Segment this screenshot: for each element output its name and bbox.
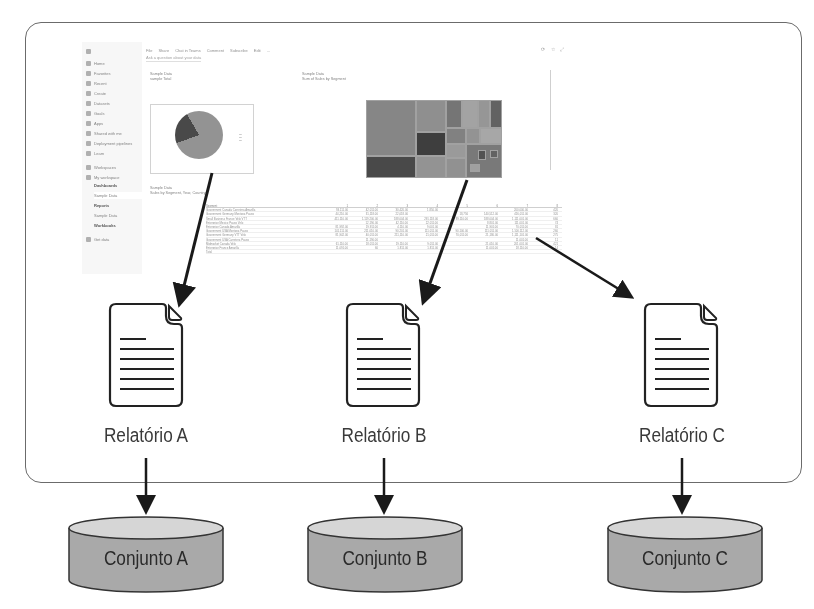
tile-subtitle: sample Total xyxy=(150,77,172,82)
table-cell: 200,000.00 xyxy=(498,208,528,211)
sidebar-item-workbooks[interactable]: Workbooks xyxy=(94,222,116,229)
table-cell xyxy=(438,250,468,253)
dashboard-treemap-tile[interactable] xyxy=(366,100,502,178)
sidebar-item-workspaces[interactable]: Workspaces xyxy=(86,164,116,171)
toolbar-button-subscribe[interactable]: Subscribe xyxy=(230,48,248,53)
table-cell: 21,011.00 xyxy=(408,233,438,236)
table-cell: 11 xyxy=(528,238,558,241)
tile-pie-title[interactable]: Sample Data sample Total xyxy=(150,72,172,81)
table-cell: 201,001.00 xyxy=(498,242,528,245)
dashboard-pie-tile[interactable]: ▪▪▪▪▪▪▪▪▪ xyxy=(150,104,254,174)
table-cell xyxy=(438,208,468,211)
table-cell: 1,811.00 xyxy=(378,246,408,249)
clock-icon xyxy=(86,81,91,86)
sidebar-item-learn[interactable]: Learn xyxy=(86,150,104,157)
tile-treemap-title[interactable]: Sample Data Sum of Sales by Segment xyxy=(302,72,346,81)
sidebar-item-datasets[interactable]: Datasets xyxy=(86,100,110,107)
sidebar-item-label: Sample Data xyxy=(94,213,117,218)
report-document-icon-a[interactable] xyxy=(108,302,184,408)
table-header-cell: 1 xyxy=(318,204,348,207)
table-cell: 42,110.00 xyxy=(378,221,408,224)
table-cell: 660 xyxy=(528,217,558,220)
table-header-cell: 8 xyxy=(528,204,558,207)
table-cell: 1,119,200.00 xyxy=(348,217,378,220)
star-icon xyxy=(86,71,91,76)
toolbar-button-edit[interactable]: Edit xyxy=(254,48,261,53)
table-cell: 188,004.00 xyxy=(468,217,498,220)
table-cell: 44,210.00 xyxy=(318,212,348,215)
sidebar-item-dashboards[interactable]: Dashboards xyxy=(94,182,117,189)
dashboard-scrollbar[interactable] xyxy=(550,70,551,170)
sidebar-item-get-data[interactable]: Get data xyxy=(86,236,109,243)
sidebar-item-shared-with-me[interactable]: Shared with me xyxy=(86,130,122,137)
report-label-a: Relatório A xyxy=(77,424,215,447)
dataset-label-a: Conjunto A xyxy=(79,547,213,570)
dashboard-toolbar: FileShareChat in TeamsCommentSubscribeEd… xyxy=(146,46,566,54)
sidebar-item-label: Get data xyxy=(94,237,109,242)
toolbar-button-share[interactable]: Share xyxy=(158,48,169,53)
sidebar-item-sample-data[interactable]: Sample Data xyxy=(94,192,146,199)
toolbar-button--[interactable]: ... xyxy=(267,48,270,53)
tile-subtitle: Sum of Sales by Segment xyxy=(302,77,346,82)
sidebar-item-label: Goals xyxy=(94,111,104,116)
sidebar-item-label: Reports xyxy=(94,203,109,208)
sidebar-item-reports[interactable]: Reports xyxy=(94,202,109,209)
table-cell xyxy=(438,221,468,224)
dashboard-table-tile[interactable]: Segment12345678Government Canada Carrete… xyxy=(206,204,562,254)
table-cell: 61,110.00 xyxy=(318,242,348,245)
table-header-cell: 4 xyxy=(408,204,438,207)
table-cell: 11,001.00 xyxy=(468,246,498,249)
table-header-cell: 6 xyxy=(468,204,498,207)
table-cell xyxy=(318,250,348,253)
table-cell: 14 xyxy=(528,246,558,249)
sidebar-item-recent[interactable]: Recent xyxy=(86,80,107,87)
table-cell: 11,091.00 xyxy=(318,246,348,249)
share-icon xyxy=(86,131,91,136)
table-cell: 1,111,101.00 xyxy=(498,233,528,236)
report-document-icon-c[interactable] xyxy=(643,302,719,408)
sidebar-item-label: Sample Data xyxy=(94,193,117,198)
navigation-sidebar: HomeFavoritesRecentCreateDatasetsGoalsAp… xyxy=(82,42,142,274)
toolbar-button-chat-in-teams[interactable]: Chat in Teams xyxy=(175,48,201,53)
sidebar-item-home[interactable]: Home xyxy=(86,60,105,67)
table-cell: 188,004.00 xyxy=(378,217,408,220)
sidebar-item-sample-data[interactable]: Sample Data xyxy=(94,212,117,219)
table-cell: 111,011.00 xyxy=(468,229,498,232)
sidebar-item-label: Workbooks xyxy=(94,223,116,228)
table-cell: 81 xyxy=(528,225,558,228)
table-cell: 260 xyxy=(528,229,558,232)
table-cell xyxy=(468,250,498,253)
table-header-cell: Segment xyxy=(206,204,318,207)
book-icon xyxy=(86,151,91,156)
table-cell: 22,011.00 xyxy=(408,221,438,224)
table-cell: 1,811.00 xyxy=(408,246,438,249)
table-cell: 40,011.00 xyxy=(348,233,378,236)
sidebar-item-menu[interactable] xyxy=(86,48,94,55)
table-row: Total xyxy=(206,250,562,254)
sidebar-item-create[interactable]: Create xyxy=(86,90,106,97)
table-cell: 111,011.00 xyxy=(408,229,438,232)
table-cell: 90,100.00 xyxy=(438,229,468,232)
qa-input[interactable]: Ask a question about your data xyxy=(146,55,201,62)
table-cell: 21,010.00 xyxy=(468,242,498,245)
report-document-icon-b[interactable] xyxy=(345,302,421,408)
table-cell: 12,190.00 xyxy=(348,221,378,224)
sidebar-item-favorites[interactable]: Favorites xyxy=(86,70,110,77)
toolbar-button-comment[interactable]: Comment xyxy=(207,48,224,53)
report-label-c: Relatório C xyxy=(613,424,751,447)
tile-title: Sample Data xyxy=(150,72,172,77)
table-header-cell: 7 xyxy=(498,204,528,207)
toolbar-right-icons[interactable]: ⟳ ☆ ⤢ xyxy=(541,46,566,53)
sidebar-item-deployment-pipelines[interactable]: Deployment pipelines xyxy=(86,140,132,147)
table-cell xyxy=(318,238,348,241)
tile-table-title[interactable]: Sample Data Sales by Segment, Year, Coun… xyxy=(150,186,206,195)
table-cell: 1,100,112.00 xyxy=(498,229,528,232)
table-cell xyxy=(468,238,498,241)
toolbar-button-file[interactable]: File xyxy=(146,48,152,53)
sidebar-item-goals[interactable]: Goals xyxy=(86,110,104,117)
table-cell: 420 xyxy=(528,208,558,211)
sidebar-item-label: Favorites xyxy=(94,71,110,76)
sidebar-item-my-workspace[interactable]: My workspace xyxy=(86,174,120,181)
sidebar-item-apps[interactable]: Apps xyxy=(86,120,103,127)
user-icon xyxy=(86,175,91,180)
